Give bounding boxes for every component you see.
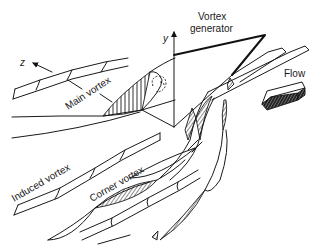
flow-label: Flow: [284, 68, 306, 79]
y-axis-label: y: [162, 33, 169, 44]
induced-vortex-label: Induced vortex: [10, 161, 72, 203]
main-vortex-leader: [100, 94, 112, 102]
vortex-generator-diagram: z Main vortex y Vortex generator: [0, 0, 315, 250]
bottom-streak-tip: [152, 231, 158, 240]
z-axis-label: z: [19, 57, 25, 68]
flow-arrow: Flow: [262, 68, 306, 110]
main-vortex-upstream-tube: [13, 58, 128, 99]
vortex-generator-label-line1: Vortex: [198, 11, 226, 22]
y-axis: y: [162, 32, 174, 127]
z-axis: z: [19, 57, 52, 72]
vortex-generator-label-line2: generator: [190, 23, 233, 34]
main-vortex: [103, 58, 175, 116]
